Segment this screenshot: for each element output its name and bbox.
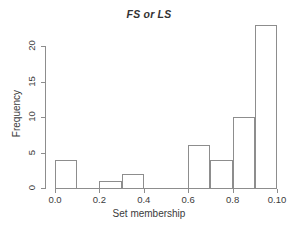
x-axis-tick-label: 0.0	[38, 194, 72, 205]
y-axis-tick	[41, 46, 45, 47]
x-axis-tick-label: 0.6	[171, 194, 205, 205]
histogram-bar	[233, 117, 255, 188]
x-axis-tick	[144, 189, 145, 193]
y-axis-tick-label: 10	[26, 107, 37, 127]
histogram-bar	[188, 145, 210, 188]
x-axis-tick	[277, 189, 278, 193]
histogram-bar	[255, 25, 277, 188]
x-axis-tick	[55, 189, 56, 193]
y-axis-tick-label: 0	[26, 178, 37, 198]
histogram-bar	[99, 181, 121, 188]
histogram-bar	[210, 160, 232, 188]
x-axis-title: Set membership	[0, 208, 298, 219]
x-axis-tick-label: 0.8	[216, 194, 250, 205]
y-axis-title: Frequency	[11, 69, 22, 159]
y-axis-tick	[41, 153, 45, 154]
histogram-figure: FS or LS Set membership Frequency 0.00.2…	[0, 0, 298, 230]
x-axis-tick	[99, 189, 100, 193]
y-axis-tick	[41, 82, 45, 83]
y-axis-tick	[41, 188, 45, 189]
x-axis-tick-label: 0.2	[82, 194, 116, 205]
y-axis-tick-label: 15	[26, 71, 37, 91]
y-axis-tick-label: 5	[26, 142, 37, 162]
y-axis-tick	[41, 117, 45, 118]
x-axis-tick	[233, 189, 234, 193]
x-axis-tick-label: 0.4	[127, 194, 161, 205]
y-axis-tick-label: 20	[26, 36, 37, 56]
histogram-bar	[122, 174, 144, 188]
x-axis-tick-label: 0.10	[260, 194, 294, 205]
x-axis-line	[55, 188, 277, 189]
x-axis-tick	[188, 189, 189, 193]
y-axis-line	[45, 46, 46, 189]
histogram-bar	[55, 160, 77, 188]
